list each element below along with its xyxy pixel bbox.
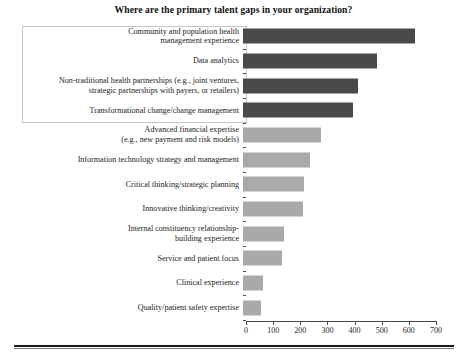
category-label-line: Quality/patient safety expertise bbox=[0, 303, 239, 313]
x-axis-tick-label: 500 bbox=[367, 326, 397, 335]
x-axis-tick bbox=[382, 321, 383, 325]
category-label-line: (e.g., new payment and risk models) bbox=[0, 135, 239, 145]
category-label-line: Non-traditional health partnerships (e.g… bbox=[0, 76, 239, 86]
bar bbox=[243, 251, 282, 266]
x-axis-tick bbox=[409, 321, 410, 325]
y-axis-tick bbox=[243, 221, 246, 222]
category-label: Internal constituency relationship-build… bbox=[0, 224, 243, 243]
category-label-line: Information technology strategy and mana… bbox=[0, 155, 239, 165]
bar-row: Service and patient focus bbox=[0, 246, 467, 271]
x-axis-tick-label: 300 bbox=[312, 326, 342, 335]
bar bbox=[243, 127, 321, 142]
x-axis-tick-label: 600 bbox=[394, 326, 424, 335]
y-axis-tick bbox=[243, 172, 246, 173]
bar bbox=[243, 201, 303, 216]
bar-row: Critical thinking/strategic planning bbox=[0, 172, 467, 197]
category-label: Service and patient focus bbox=[0, 254, 243, 264]
x-axis-tick bbox=[273, 321, 274, 325]
bar-track bbox=[243, 73, 467, 98]
bar-track bbox=[243, 123, 467, 148]
x-axis-tick bbox=[355, 321, 356, 325]
y-axis-tick bbox=[243, 73, 246, 74]
category-label: Quality/patient safety expertise bbox=[0, 303, 243, 313]
category-label-line: Community and population health bbox=[0, 27, 239, 37]
y-axis-tick bbox=[243, 295, 246, 296]
category-label-line: Transformational change/change managemen… bbox=[0, 106, 239, 116]
y-axis-spine bbox=[246, 24, 247, 321]
category-label-line: Clinical experience bbox=[0, 278, 239, 288]
bar bbox=[243, 53, 377, 68]
bar-track bbox=[243, 221, 467, 246]
bar-track bbox=[243, 98, 467, 123]
x-axis-tick-label: 400 bbox=[340, 326, 370, 335]
bar-track bbox=[243, 271, 467, 296]
y-axis-tick bbox=[243, 98, 246, 99]
category-label: Critical thinking/strategic planning bbox=[0, 180, 243, 190]
bar-track bbox=[243, 246, 467, 271]
x-axis-tick bbox=[327, 321, 328, 325]
category-label-line: Data analytics bbox=[0, 56, 239, 66]
x-axis-tick-label: 200 bbox=[285, 326, 315, 335]
bar-track bbox=[243, 147, 467, 172]
plot-area: Community and population healthmanagemen… bbox=[0, 24, 467, 324]
footer-rule-shadow bbox=[14, 348, 454, 349]
x-axis-tick bbox=[436, 321, 437, 325]
y-axis-tick bbox=[243, 49, 246, 50]
footer-rule bbox=[14, 345, 454, 347]
bar-row: Quality/patient safety expertise bbox=[0, 295, 467, 320]
y-axis-tick bbox=[243, 271, 246, 272]
bar-row: Transformational change/change managemen… bbox=[0, 98, 467, 123]
bar-track bbox=[243, 197, 467, 222]
x-axis-tick bbox=[300, 321, 301, 325]
category-label: Data analytics bbox=[0, 56, 243, 66]
category-label: Innovative thinking/creativity bbox=[0, 204, 243, 214]
category-label-line: strategic partnerships with payers, or r… bbox=[0, 86, 239, 96]
bar-track bbox=[243, 49, 467, 74]
category-label: Clinical experience bbox=[0, 278, 243, 288]
y-axis-tick bbox=[243, 147, 246, 148]
category-label: Advanced financial expertise(e.g., new p… bbox=[0, 125, 243, 144]
bar-rows: Community and population healthmanagemen… bbox=[0, 24, 467, 320]
bar-row: Internal constituency relationship-build… bbox=[0, 221, 467, 246]
x-axis-tick-label: 0 bbox=[231, 326, 261, 335]
bar-row: Data analytics bbox=[0, 49, 467, 74]
bar-row: Clinical experience bbox=[0, 271, 467, 296]
category-label-line: Innovative thinking/creativity bbox=[0, 204, 239, 214]
category-label-line: Internal constituency relationship- bbox=[0, 224, 239, 234]
x-axis-tick bbox=[246, 321, 247, 325]
bar-track bbox=[243, 295, 467, 320]
bar-row: Non-traditional health partnerships (e.g… bbox=[0, 73, 467, 98]
bar-row: Community and population healthmanagemen… bbox=[0, 24, 467, 49]
bar bbox=[243, 177, 304, 192]
x-axis-tick-label: 100 bbox=[258, 326, 288, 335]
bar-row: Innovative thinking/creativity bbox=[0, 197, 467, 222]
x-axis-line bbox=[246, 321, 436, 322]
chart-title: Where are the primary talent gaps in you… bbox=[0, 4, 467, 15]
bar bbox=[243, 29, 415, 44]
bar-track bbox=[243, 172, 467, 197]
category-label-line: Service and patient focus bbox=[0, 254, 239, 264]
category-label: Transformational change/change managemen… bbox=[0, 106, 243, 116]
category-label-line: building experience bbox=[0, 234, 239, 244]
y-axis-tick bbox=[243, 123, 246, 124]
bar bbox=[243, 78, 358, 93]
bar-track bbox=[243, 24, 467, 49]
y-axis-tick bbox=[243, 197, 246, 198]
bar-row: Information technology strategy and mana… bbox=[0, 147, 467, 172]
category-label: Community and population healthmanagemen… bbox=[0, 27, 243, 46]
category-label-line: Critical thinking/strategic planning bbox=[0, 180, 239, 190]
category-label-line: management experience bbox=[0, 36, 239, 46]
chart-page: Where are the primary talent gaps in you… bbox=[0, 0, 467, 359]
bar bbox=[243, 103, 353, 118]
y-axis-tick bbox=[243, 320, 246, 321]
bar bbox=[243, 152, 310, 167]
category-label-line: Advanced financial expertise bbox=[0, 125, 239, 135]
bar bbox=[243, 226, 284, 241]
category-label: Non-traditional health partnerships (e.g… bbox=[0, 76, 243, 95]
x-axis-tick-label: 700 bbox=[421, 326, 451, 335]
y-axis-tick bbox=[243, 246, 246, 247]
category-label: Information technology strategy and mana… bbox=[0, 155, 243, 165]
bar-row: Advanced financial expertise(e.g., new p… bbox=[0, 123, 467, 148]
